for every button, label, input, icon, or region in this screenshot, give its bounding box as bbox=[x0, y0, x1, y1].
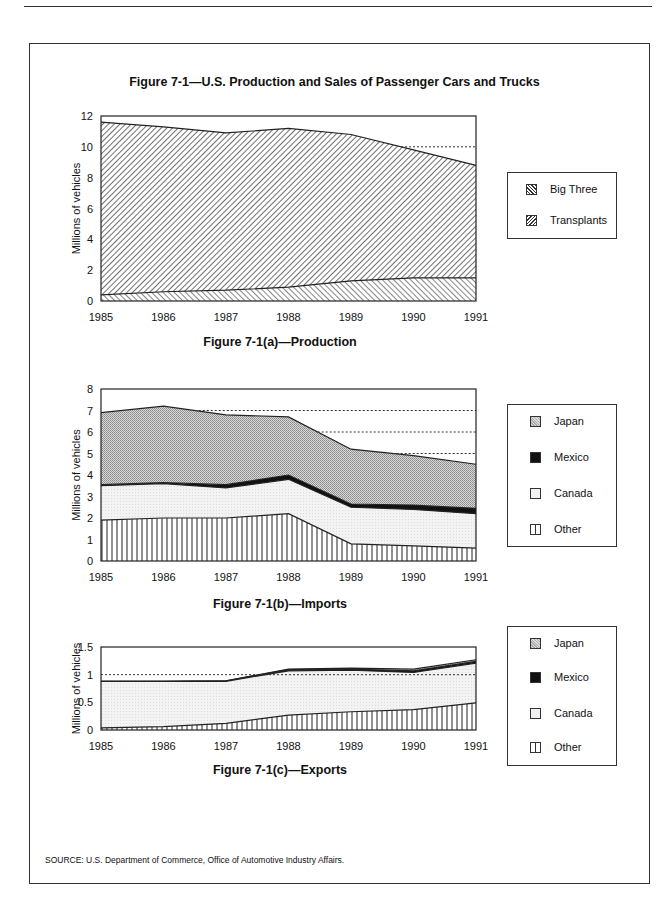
big-three-swatch-icon bbox=[526, 184, 537, 195]
y-tick-label: 12 bbox=[81, 110, 93, 122]
y-tick-label: 7 bbox=[87, 405, 93, 417]
legend-label: Japan bbox=[554, 637, 584, 649]
legend-label: Canada bbox=[554, 487, 593, 499]
x-tick-label: 1988 bbox=[276, 571, 300, 583]
legend-item-japan: Japan bbox=[530, 637, 584, 649]
other-swatch-icon bbox=[530, 742, 541, 753]
x-tick-label: 1987 bbox=[214, 740, 238, 752]
y-tick-label: 1 bbox=[87, 669, 93, 681]
japan-swatch-icon bbox=[530, 416, 541, 427]
y-tick-label: 6 bbox=[87, 426, 93, 438]
y-axis-label: Millions of vehicles bbox=[70, 429, 82, 521]
x-tick-label: 1989 bbox=[339, 571, 363, 583]
x-tick-label: 1990 bbox=[401, 311, 425, 323]
legend-item-canada: Canada bbox=[530, 487, 593, 499]
x-tick-label: 1986 bbox=[151, 571, 175, 583]
legend-label: Transplants bbox=[550, 214, 607, 226]
other-swatch-icon bbox=[530, 524, 541, 535]
legend-item-japan: Japan bbox=[530, 415, 584, 427]
mexico-swatch-icon bbox=[530, 672, 541, 683]
legend-item-transplants: Transplants bbox=[526, 214, 607, 226]
x-tick-label: 1985 bbox=[89, 740, 113, 752]
x-tick-label: 1988 bbox=[276, 311, 300, 323]
y-axis-label: Millions of vehicles bbox=[70, 642, 82, 734]
y-tick-label: 4 bbox=[87, 233, 93, 245]
y-tick-label: 0 bbox=[87, 555, 93, 567]
y-tick-label: 1 bbox=[87, 534, 93, 546]
exports-legend: Japan Mexico Canada Other bbox=[507, 626, 617, 766]
mexico-swatch-icon bbox=[530, 452, 541, 463]
legend-item-canada: Canada bbox=[530, 707, 593, 719]
legend-item-mexico: Mexico bbox=[530, 451, 589, 463]
x-tick-label: 1988 bbox=[276, 740, 300, 752]
canada-swatch-icon bbox=[530, 488, 541, 499]
legend-item-other: Other bbox=[530, 741, 582, 753]
legend-label: Japan bbox=[554, 415, 584, 427]
imports-subtitle: Figure 7-1(b)—Imports bbox=[60, 597, 500, 611]
x-tick-label: 1989 bbox=[339, 311, 363, 323]
legend-label: Mexico bbox=[554, 451, 589, 463]
x-tick-label: 1985 bbox=[89, 311, 113, 323]
imports-chart: 0123456781985198619871988198919901991Mil… bbox=[70, 383, 488, 583]
x-tick-label: 1989 bbox=[339, 740, 363, 752]
x-tick-label: 1991 bbox=[464, 311, 488, 323]
legend-label: Other bbox=[554, 741, 582, 753]
y-tick-label: 6 bbox=[87, 203, 93, 215]
imports-legend: Japan Mexico Canada Other bbox=[507, 404, 617, 547]
y-tick-label: 4 bbox=[87, 469, 93, 481]
transplants-swatch-icon bbox=[526, 215, 537, 226]
production-chart: 0246810121985198619871988198919901991Mil… bbox=[70, 110, 488, 323]
japan-swatch-icon bbox=[530, 638, 541, 649]
x-tick-label: 1987 bbox=[214, 571, 238, 583]
y-tick-label: 3 bbox=[87, 491, 93, 503]
canada-swatch-icon bbox=[530, 708, 541, 719]
y-tick-label: 2 bbox=[87, 264, 93, 276]
source-note: SOURCE: U.S. Department of Commerce, Off… bbox=[45, 855, 344, 865]
x-tick-label: 1991 bbox=[464, 571, 488, 583]
x-tick-label: 1987 bbox=[214, 311, 238, 323]
x-tick-label: 1991 bbox=[464, 740, 488, 752]
y-tick-label: 0 bbox=[87, 295, 93, 307]
y-tick-label: 5 bbox=[87, 448, 93, 460]
x-tick-label: 1985 bbox=[89, 571, 113, 583]
exports-chart: 00.511.51985198619871988198919901991Mill… bbox=[70, 641, 488, 752]
legend-label: Other bbox=[554, 523, 582, 535]
x-tick-label: 1990 bbox=[401, 571, 425, 583]
area-big-three bbox=[101, 122, 476, 295]
y-axis-label: Millions of vehicles bbox=[70, 162, 82, 254]
legend-label: Mexico bbox=[554, 671, 589, 683]
legend-label: Big Three bbox=[550, 183, 598, 195]
legend-item-big-three: Big Three bbox=[526, 183, 598, 195]
x-tick-label: 1986 bbox=[151, 311, 175, 323]
production-subtitle: Figure 7-1(a)—Production bbox=[60, 335, 500, 349]
production-legend: Big Three Transplants bbox=[507, 172, 617, 239]
y-tick-label: 2 bbox=[87, 512, 93, 524]
legend-label: Canada bbox=[554, 707, 593, 719]
y-tick-label: 0 bbox=[87, 724, 93, 736]
x-tick-label: 1990 bbox=[401, 740, 425, 752]
y-tick-label: 10 bbox=[81, 141, 93, 153]
exports-subtitle: Figure 7-1(c)—Exports bbox=[60, 763, 500, 777]
y-tick-label: 8 bbox=[87, 172, 93, 184]
x-tick-label: 1986 bbox=[151, 740, 175, 752]
legend-item-other: Other bbox=[530, 523, 582, 535]
legend-item-mexico: Mexico bbox=[530, 671, 589, 683]
y-tick-label: 8 bbox=[87, 383, 93, 395]
